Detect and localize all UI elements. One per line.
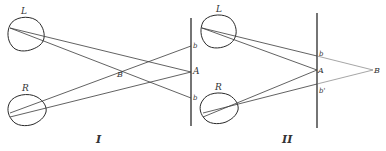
panel-II: L R b A b' B II [200, 4, 380, 146]
binocular-vision-diagram: L R B A b b I L R b A b' B II [0, 0, 386, 151]
panel-I: L R B A b b I [8, 6, 200, 146]
label-A: A [192, 66, 200, 76]
label-b-prime: b' [319, 87, 325, 95]
label-b: b [319, 50, 324, 58]
label-B: B [116, 70, 123, 79]
label-b-upper: b [193, 42, 198, 50]
right-eye [8, 95, 46, 126]
right-eye [200, 93, 238, 124]
panel-numeral-I: I [95, 133, 102, 146]
label-R: R [21, 83, 29, 93]
left-eye [201, 15, 236, 48]
label-R: R [214, 82, 222, 92]
label-L: L [20, 6, 27, 16]
label-L: L [215, 4, 222, 14]
label-b-lower: b [193, 94, 198, 102]
label-A: A [317, 66, 324, 75]
panel-numeral-II: II [281, 133, 293, 146]
label-B: B [373, 66, 380, 75]
